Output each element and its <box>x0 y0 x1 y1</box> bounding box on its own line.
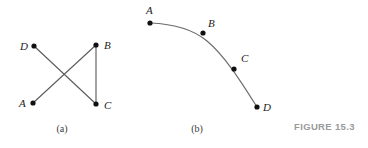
curve-label-d: D <box>262 101 271 113</box>
arc-curve-abcd <box>150 23 257 107</box>
panel-a-edges <box>33 45 96 104</box>
curve-point-b <box>200 30 205 35</box>
vertex-dot-b <box>93 42 98 47</box>
vertex-dot-d <box>31 43 36 48</box>
curve-label-b: B <box>208 17 215 29</box>
figure-number-caption: FIGURE 15.3 <box>294 121 355 132</box>
panel-b-caption: (b) <box>191 123 203 135</box>
vertex-label-a: A <box>18 97 26 109</box>
curve-label-c: C <box>241 52 249 64</box>
vertex-dot-c <box>93 101 98 106</box>
curve-point-c <box>231 66 236 71</box>
vertex-label-d: D <box>19 40 28 52</box>
vertex-label-c: C <box>104 99 112 111</box>
figure-canvas: D B A C (a) A B C D (b) <box>0 0 368 148</box>
panel-a-group: D B A C (a) <box>18 39 112 135</box>
curve-point-a <box>147 20 152 25</box>
panel-a-caption: (a) <box>56 123 67 135</box>
vertex-label-b: B <box>104 39 111 51</box>
panel-b-labels: A B C D <box>145 4 271 113</box>
vertex-dot-a <box>30 100 35 105</box>
panel-b-group: A B C D (b) <box>145 4 271 135</box>
edge-d-c <box>34 46 96 104</box>
curve-label-a: A <box>145 4 153 16</box>
figure-container: D B A C (a) A B C D (b) <box>0 0 368 148</box>
curve-point-d <box>254 104 259 109</box>
panel-b-vertices <box>147 20 259 109</box>
